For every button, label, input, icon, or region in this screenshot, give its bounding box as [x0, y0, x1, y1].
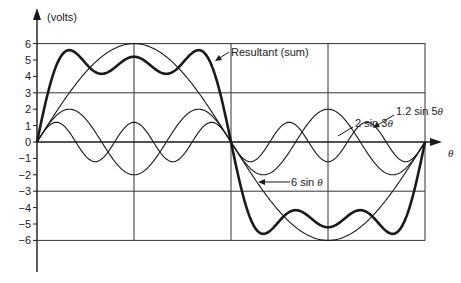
y-tick-label: −6	[18, 234, 31, 246]
y-tick-label: 1	[25, 120, 31, 132]
y-tick-label: −5	[18, 218, 31, 230]
y-axis-label: (volts)	[47, 11, 77, 23]
y-tick-label: 0	[25, 136, 31, 148]
y-tick-label: −4	[18, 202, 31, 214]
y-tick-label: 6	[25, 38, 31, 50]
y-tick-label: −2	[18, 169, 31, 181]
y-tick-label: 4	[25, 70, 31, 82]
x-axis-label: θ	[448, 147, 454, 159]
waveform-chart: (volts) θ 6543210−1−2−3−4−5−6 Resultant …	[0, 0, 461, 283]
y-ticks: 6543210−1−2−3−4−5−6	[18, 38, 37, 247]
resultant-label: Resultant (sum)	[231, 46, 309, 58]
x-axis-arrow-icon	[430, 138, 442, 146]
s3-leader	[338, 127, 353, 136]
y-tick-label: −1	[18, 152, 31, 164]
y-tick-label: 3	[25, 87, 31, 99]
y-axis-arrow-icon	[33, 8, 41, 20]
s5-label: 1.2 sin 5θ	[396, 105, 444, 117]
s1-label: 6 sin θ	[291, 176, 323, 188]
y-tick-label: 2	[25, 103, 31, 115]
y-tick-label: 5	[25, 54, 31, 66]
y-tick-label: −3	[18, 185, 31, 197]
arrowhead-icon	[215, 55, 222, 61]
arrowhead-icon	[258, 179, 265, 185]
